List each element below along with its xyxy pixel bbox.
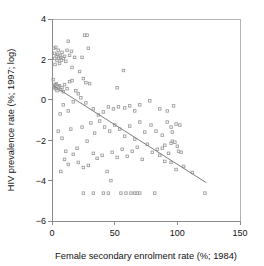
data-point (164, 160, 167, 163)
data-point (154, 192, 157, 195)
data-point (70, 50, 73, 53)
data-point (80, 97, 83, 100)
data-point (161, 147, 164, 150)
data-point (67, 163, 70, 166)
data-point (151, 151, 154, 154)
data-point (144, 131, 147, 134)
data-point (92, 192, 95, 195)
y-tick-label: −4 (36, 176, 46, 186)
data-point (63, 83, 66, 86)
data-point (123, 135, 126, 138)
data-point (122, 69, 125, 72)
figure-container: −6−4−2024050100150 Female secondary enro… (0, 0, 264, 266)
data-point (82, 192, 85, 195)
data-point (61, 86, 64, 89)
data-point (175, 168, 178, 171)
data-point (63, 55, 66, 58)
data-point (57, 49, 60, 52)
data-point (67, 40, 70, 43)
data-point (62, 104, 65, 107)
data-point (58, 62, 61, 65)
data-point (125, 192, 128, 195)
data-point (171, 131, 174, 134)
axis-ticks (48, 19, 240, 225)
y-tick-label: −6 (36, 216, 46, 226)
data-point (120, 192, 123, 195)
data-point (131, 150, 134, 153)
data-point (71, 66, 74, 69)
data-point (121, 148, 124, 151)
data-point (138, 121, 141, 124)
data-point (90, 122, 93, 125)
data-point (85, 102, 88, 105)
data-point (128, 125, 131, 128)
data-point (130, 192, 133, 195)
data-point (166, 110, 169, 113)
data-point (92, 108, 95, 111)
data-point (128, 105, 131, 108)
data-point (77, 92, 80, 95)
data-point (70, 128, 73, 131)
data-point (116, 86, 119, 89)
y-tick-label: 4 (41, 14, 46, 24)
data-point (170, 126, 173, 129)
data-point (172, 105, 175, 108)
data-point (54, 63, 57, 65)
data-point (166, 121, 169, 124)
data-point (56, 89, 59, 92)
data-point (78, 70, 81, 73)
data-point (107, 106, 110, 109)
data-point (76, 147, 79, 150)
data-point (55, 46, 58, 49)
data-point (72, 153, 75, 156)
data-point (141, 158, 144, 161)
data-point (82, 77, 85, 80)
data-point (61, 51, 64, 54)
y-tick-label: 0 (41, 95, 46, 105)
regression-line (53, 86, 206, 183)
data-point (106, 170, 109, 173)
data-point (75, 89, 78, 92)
data-point (96, 157, 99, 160)
data-point (86, 34, 89, 37)
data-point (57, 130, 60, 133)
data-point (60, 170, 63, 173)
data-point (138, 104, 141, 107)
data-point (73, 56, 76, 59)
data-point (87, 164, 90, 167)
data-point (92, 152, 95, 155)
data-point (67, 110, 70, 113)
data-point (176, 145, 179, 148)
data-point (87, 47, 90, 50)
data-point (167, 152, 170, 155)
x-tick-label: 0 (49, 228, 54, 238)
data-point (155, 130, 158, 133)
data-point (63, 158, 66, 161)
data-point (180, 151, 183, 154)
data-point (179, 124, 182, 127)
data-point (110, 179, 113, 182)
data-point (102, 111, 105, 114)
data-point (108, 130, 111, 133)
data-point (66, 49, 69, 52)
data-point (59, 113, 62, 116)
scatter-plot: −6−4−2024050100150 Female secondary enro… (0, 0, 264, 266)
data-point (61, 137, 64, 140)
data-point (133, 110, 136, 113)
data-point (117, 106, 120, 109)
fit-line (53, 86, 206, 183)
data-point (126, 155, 129, 158)
data-point (65, 60, 68, 63)
data-point (116, 156, 119, 159)
data-point (111, 151, 114, 154)
data-point (103, 126, 106, 129)
data-point (112, 108, 115, 111)
data-point (66, 87, 69, 90)
data-point (102, 192, 105, 195)
data-point (71, 79, 74, 82)
data-point (136, 146, 139, 149)
data-point (174, 141, 177, 144)
x-tick-label: 100 (170, 228, 185, 238)
data-point (81, 126, 84, 129)
x-tick-label: 150 (232, 228, 247, 238)
